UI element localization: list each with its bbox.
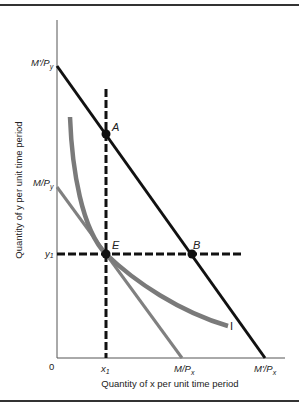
tick-low-budget-x: M/Px <box>174 363 195 376</box>
indifference-curve <box>70 117 228 326</box>
point-a <box>102 130 111 139</box>
y-axis-title: Quantity of y per unit time period <box>13 121 24 258</box>
label-e: E <box>112 239 120 251</box>
budget-line-high <box>57 66 265 358</box>
x-axis-title: Quantity of x per unit time period <box>101 378 238 389</box>
tick-high-budget-x: M'/Px <box>254 363 277 376</box>
tick-x1: x1 <box>100 363 110 375</box>
label-b: B <box>193 239 200 251</box>
tick-y1: y1 <box>44 248 54 259</box>
label-curve-i: I <box>230 320 233 332</box>
tick-high-budget-y: M'/Py <box>31 57 54 71</box>
tick-low-budget-y: M/Py <box>33 177 54 191</box>
diagram-canvas: A E B I M'/Py M/Py y1 0 x1 M/Px M'/Px Qu… <box>0 0 299 406</box>
origin-label: 0 <box>49 361 54 372</box>
point-e <box>102 250 111 259</box>
label-a: A <box>111 121 119 133</box>
